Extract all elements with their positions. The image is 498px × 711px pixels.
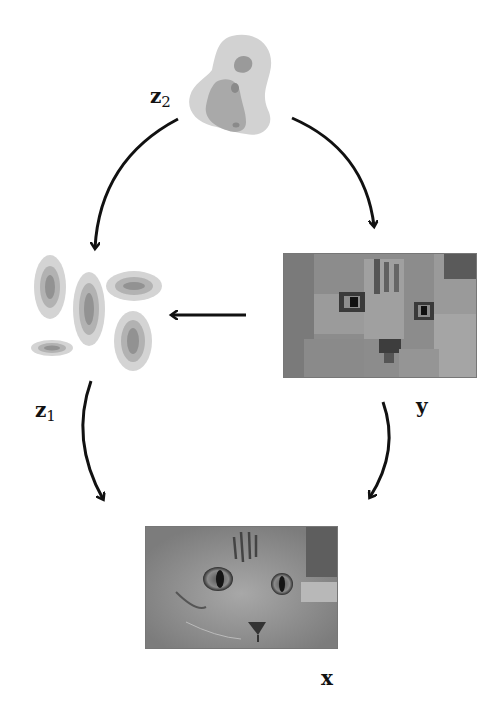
x-label-main: x xyxy=(321,666,333,690)
gaussian-1 xyxy=(34,255,66,319)
z1-label: z1 xyxy=(35,400,56,424)
z1-label-sub: 1 xyxy=(46,407,56,425)
y-label: y xyxy=(416,396,428,416)
z2-label-sub: 2 xyxy=(161,93,171,111)
gaussian-3 xyxy=(106,271,162,301)
x-highres-cat-image xyxy=(145,526,338,649)
z2-label: z2 xyxy=(150,86,171,110)
gaussian-2 xyxy=(73,272,105,346)
gaussian-5 xyxy=(31,340,73,356)
y-lowres-cat-image xyxy=(283,253,477,378)
x-label: x xyxy=(321,668,333,688)
z1-label-main: z xyxy=(35,398,46,422)
gaussian-4 xyxy=(114,311,152,371)
z2-label-main: z xyxy=(150,84,161,108)
y-label-main: y xyxy=(416,394,428,418)
